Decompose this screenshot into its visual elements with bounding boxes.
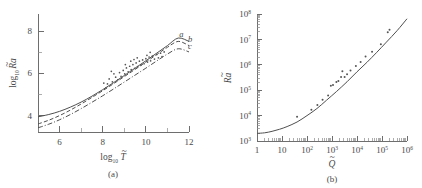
data-point [360,61,362,63]
data-point [140,64,142,66]
data-point [142,59,144,61]
data-point [126,67,128,69]
panel-b-scatter [296,29,390,118]
x-tick-label-10: 10 [141,137,151,147]
data-point [327,94,329,96]
data-point [355,65,357,67]
data-point [365,56,367,58]
data-point [160,52,162,54]
data-point [124,73,126,75]
data-point [129,65,131,67]
x-tick-label-12: 12 [185,137,194,147]
y-axis-ticks-a [38,31,44,115]
data-point [332,84,334,86]
data-point [130,69,132,71]
data-point [122,70,124,72]
x-axis-title-tilde-b: ~ [329,152,334,162]
y-axis-title-tilde-a: ~ [2,62,12,67]
panel-a-caption: (a) [108,169,118,179]
x-tick-label-6: 6 [57,137,62,147]
data-point [340,76,342,78]
data-point [113,73,115,75]
x-axis-title-b: Q ~ [329,152,336,169]
data-point [146,54,148,56]
y-tick-label: 106 [239,60,251,70]
y-tick-label-4: 4 [28,111,33,121]
data-point [143,63,145,65]
panel-b-y-tick-labels: 103104105106107108 [239,9,251,146]
x-tick-label: 10 [278,145,288,155]
data-point [110,70,112,72]
data-point [148,56,150,58]
data-point [344,76,346,78]
panel-b: 103104105106107108 110102103104105106 Ra… [211,0,422,188]
data-point [112,81,114,83]
panel-b-ticks [257,14,407,141]
data-point [346,73,348,75]
data-point [154,58,156,60]
data-point [139,60,141,62]
data-point [161,56,163,58]
x-axis-title-log-a: log [100,152,112,162]
data-point [371,51,373,53]
x-tick-label: 106 [401,145,413,155]
data-point [389,29,391,31]
y-axis-title-log-a: log [8,75,18,87]
y-tick-label-8: 8 [28,26,33,36]
curve-fit-b [257,19,407,134]
x-tick-label-8: 8 [100,137,105,147]
data-point [145,58,147,60]
data-point [322,99,324,101]
x-tick-label: 1 [255,145,260,155]
data-point [387,31,389,33]
data-point [105,87,107,89]
y-axis-title-tilde-b: ~ [217,72,227,77]
data-point [117,79,119,81]
data-point [127,71,129,73]
x-tick-label: 102 [301,145,313,155]
panel-a-curves [38,38,189,128]
x-axis-ticks-a [38,126,189,132]
data-point [156,54,158,56]
data-point [137,66,139,68]
data-point [130,60,132,62]
y-tick-label: 103 [239,136,251,146]
data-point [107,83,109,85]
panel-a: 4 6 8 6 8 10 12 log10Ra ~ log10T ~ [0,0,211,188]
data-point [335,81,337,83]
data-point [150,60,152,62]
data-point [132,64,134,66]
data-point [136,57,138,59]
x-tick-label: 104 [351,145,363,155]
y-tick-label: 108 [239,9,251,19]
data-point [125,64,127,66]
curve-label-c: c [188,41,192,51]
x-axis-title-a: log10T ~ [100,146,126,164]
data-point [158,57,160,59]
data-point [310,109,312,111]
y-tick-label: 107 [239,34,251,44]
x-tick-label: 105 [376,145,388,155]
x-axis-title-sub-a: 10 [112,158,118,164]
data-point [115,76,117,78]
figure-container: 4 6 8 6 8 10 12 log10Ra ~ log10T ~ [0,0,422,188]
y-axis-title-b: Ra ~ [217,72,234,84]
panel-b-plot: 103104105106107108 110102103104105106 Ra… [211,0,422,188]
data-point [147,61,149,63]
data-point [119,72,121,74]
y-tick-label-6: 6 [28,68,33,78]
curve-label-a: a [179,29,183,39]
data-point [135,62,137,64]
data-point [120,76,122,78]
data-point [350,69,352,71]
y-axis-title-sub-a: 10 [14,70,20,76]
curve-c-dashdot [38,49,189,128]
x-axis-title-tilde-a: ~ [121,146,126,156]
data-point [103,82,105,84]
data-point [134,68,136,70]
data-point [149,52,151,54]
curve-a-solid [38,38,189,117]
y-tick-label: 104 [239,110,251,120]
y-tick-label: 105 [239,85,251,95]
data-point [133,59,135,61]
